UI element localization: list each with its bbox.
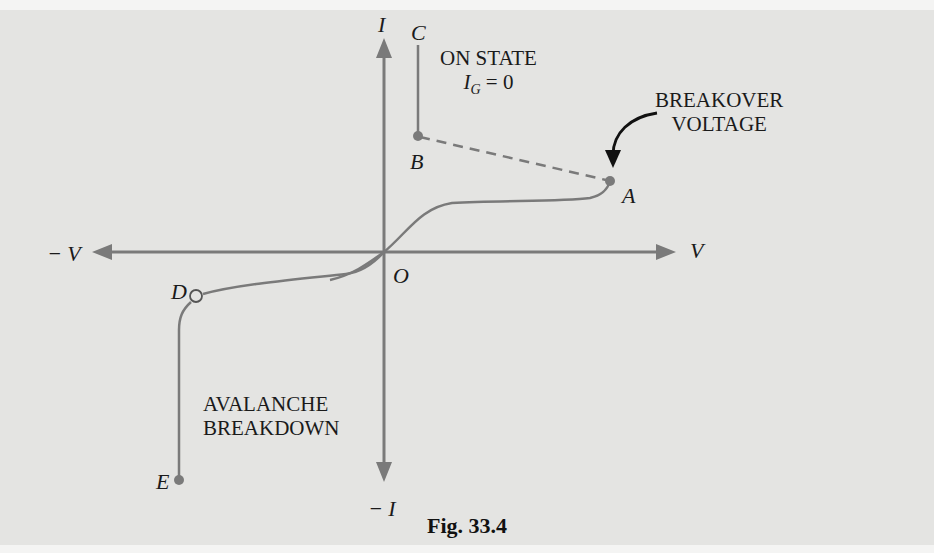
axes [110,54,658,464]
avalanche-line-2: BREAKDOWN [203,416,340,440]
breakover-voltage-annotation: BREAKOVER VOLTAGE [655,88,783,136]
origin-label: O [393,265,409,287]
i-axis-down-arrow-icon [376,462,392,482]
avalanche-breakdown-line [179,302,191,478]
reverse-blocking-curve [203,252,384,294]
breakover-pointer-arrowhead-icon [605,150,621,168]
breakover-line-1: BREAKOVER [655,88,783,112]
v-axis-left-arrow-icon [92,244,112,260]
forward-blocking-curve [330,181,610,280]
avalanche-breakdown-annotation: AVALANCHE BREAKDOWN [203,392,340,440]
point-b-marker [413,131,423,141]
i-axis-up-arrow-icon [376,38,392,58]
on-state-title: ON STATE [440,46,537,70]
figure-caption: Fig. 33.4 [0,513,934,539]
point-a-label: A [622,185,635,207]
breakover-pointer-arrow [613,113,657,155]
point-e-label: E [156,471,169,493]
point-b-label: B [410,151,423,173]
v-axis-label: V [690,240,703,262]
v-axis-right-arrow-icon [656,244,676,260]
breakover-line-2: VOLTAGE [655,112,783,136]
point-e-marker [174,475,184,485]
point-c-label: C [411,22,426,44]
gate-current-subscript: G [470,82,480,97]
point-d-label: D [171,281,187,303]
point-a-marker [605,176,615,186]
point-d-open-marker [190,290,202,302]
gate-current-condition: IG = 0 [440,70,537,102]
negative-resistance-dashed-line [420,137,606,180]
gate-current-value: = 0 [481,70,514,94]
i-axis-label: I [378,14,385,36]
minus-v-axis-label: − V [47,243,81,265]
on-state-annotation: ON STATE IG = 0 [440,46,537,102]
avalanche-line-1: AVALANCHE [203,392,340,416]
